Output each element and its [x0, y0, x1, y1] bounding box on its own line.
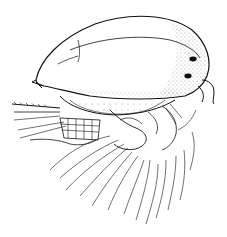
illustration-canvas	[0, 0, 227, 237]
eye-lower	[184, 74, 191, 79]
eye-upper	[189, 57, 196, 62]
body-limbs	[12, 96, 196, 224]
carapace	[32, 16, 214, 104]
crustacean-illustration	[0, 0, 227, 237]
